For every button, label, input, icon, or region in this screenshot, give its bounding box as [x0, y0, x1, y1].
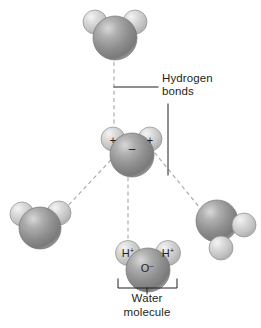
oxygen-atom-sphere	[19, 207, 61, 249]
left-water-molecule	[10, 201, 71, 249]
label-water-molecule: Water molecule	[124, 292, 171, 319]
label-water-molecule-line1: Water	[124, 292, 171, 306]
charge-label-positive-left: +	[110, 134, 116, 146]
oxygen-atom-sphere	[196, 200, 238, 242]
atom-label-hydrogen-right-symbol: H	[162, 247, 170, 259]
charge-label-negative: –	[129, 142, 136, 156]
right-water-molecule	[196, 200, 256, 260]
hydrogen-atom-sphere	[209, 236, 233, 260]
label-hydrogen-bonds: Hydrogen bonds	[162, 72, 213, 98]
bond-center-to-right	[150, 147, 200, 208]
atom-label-hydrogen-left-charge: +	[130, 246, 135, 255]
charge-label-positive-right: +	[147, 134, 153, 146]
label-water-molecule-line2: molecule	[124, 306, 171, 320]
label-hydrogen-bonds-line2: bonds	[162, 85, 213, 98]
hydrogen-atom-sphere	[232, 213, 256, 237]
center-water-molecule: + + –	[101, 127, 162, 177]
atom-label-hydrogen-left-symbol: H	[122, 247, 130, 259]
water-hydrogen-bonding-diagram: + + – H+ H+ O–	[0, 0, 261, 328]
label-hydrogen-bonds-line1: Hydrogen	[162, 72, 213, 85]
atom-label-hydrogen-right-charge: +	[170, 246, 175, 255]
top-water-molecule	[83, 10, 147, 60]
bottom-water-molecule: H+ H+ O–	[116, 241, 181, 293]
oxygen-atom-sphere	[93, 16, 137, 60]
bond-center-to-left	[62, 160, 111, 212]
